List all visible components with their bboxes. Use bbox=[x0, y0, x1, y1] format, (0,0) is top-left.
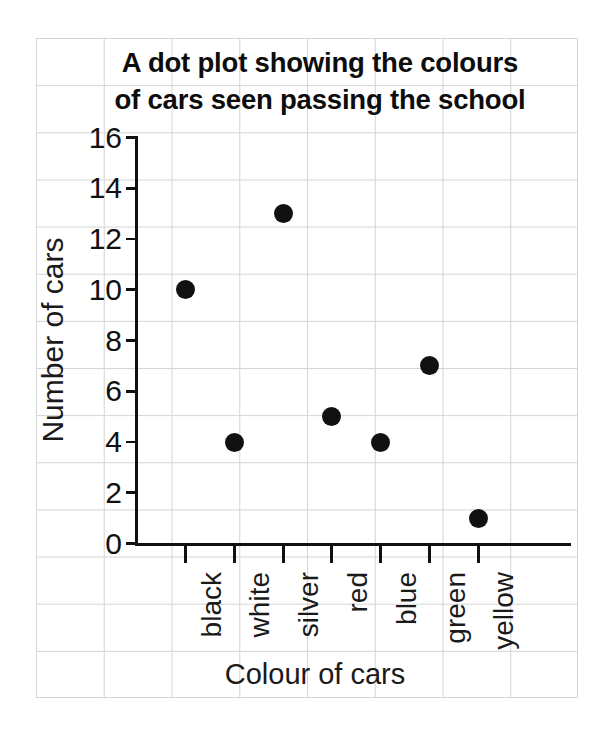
y-axis-tick bbox=[126, 339, 136, 342]
y-axis-tick-label: 6 bbox=[78, 376, 122, 406]
data-point bbox=[274, 204, 293, 223]
y-axis-tick-label-text: 12 bbox=[80, 224, 122, 254]
x-axis-tick bbox=[428, 545, 431, 563]
x-axis-tick bbox=[330, 545, 333, 563]
x-axis-tick bbox=[379, 545, 382, 563]
x-axis-tick bbox=[184, 545, 187, 563]
y-axis-tick-label: 2 bbox=[78, 478, 122, 508]
x-axis-tick bbox=[233, 545, 236, 563]
y-axis-tick bbox=[126, 390, 136, 393]
chart-title: A dot plot showing the colours of cars s… bbox=[60, 44, 580, 118]
x-axis-title: Colour of cars bbox=[140, 657, 490, 691]
y-axis-tick-label-text: 8 bbox=[80, 326, 122, 356]
y-axis-tick bbox=[126, 491, 136, 494]
y-axis-tick-label-text: 2 bbox=[80, 478, 122, 508]
x-axis-category-label: yellow bbox=[490, 572, 518, 732]
y-axis-tick-label-text: 6 bbox=[80, 376, 122, 406]
y-axis-title: Number of cars bbox=[38, 215, 68, 465]
y-axis-tick bbox=[126, 288, 136, 291]
y-axis-tick-label: 0 bbox=[78, 529, 122, 559]
dot-plot-figure: A dot plot showing the colours of cars s… bbox=[0, 0, 611, 738]
y-axis-tick-label: 12 bbox=[78, 224, 122, 254]
data-point bbox=[469, 509, 488, 528]
data-point bbox=[225, 433, 244, 452]
x-axis-category-label: white bbox=[246, 572, 274, 732]
y-axis-tick-label: 8 bbox=[78, 326, 122, 356]
y-axis-tick bbox=[126, 187, 136, 190]
x-axis-tick bbox=[477, 545, 480, 563]
x-axis-tick bbox=[282, 545, 285, 563]
y-axis-tick-label: 14 bbox=[78, 173, 122, 203]
y-axis-tick-label: 4 bbox=[78, 427, 122, 457]
y-axis-tick-label-text: 14 bbox=[80, 173, 122, 203]
x-axis-line bbox=[135, 543, 571, 546]
y-axis-tick-label-text: 4 bbox=[80, 427, 122, 457]
y-axis-tick-label-text: 16 bbox=[80, 123, 122, 153]
y-axis-tick-label-text: 0 bbox=[80, 529, 122, 559]
y-axis-tick bbox=[126, 238, 136, 241]
y-axis-tick bbox=[126, 136, 136, 139]
x-axis-category-label: blue bbox=[393, 572, 421, 732]
y-axis-tick-label-text: 10 bbox=[80, 275, 122, 305]
x-axis-category-label: silver bbox=[295, 572, 323, 732]
y-axis-tick bbox=[126, 441, 136, 444]
x-axis-category-label: green bbox=[442, 572, 470, 732]
y-axis-tick-label: 10 bbox=[78, 275, 122, 305]
x-axis-category-label: red bbox=[344, 572, 372, 732]
x-axis-category-label: black bbox=[198, 572, 226, 732]
y-axis-tick bbox=[126, 542, 136, 545]
data-point bbox=[371, 433, 390, 452]
y-axis-tick-label: 16 bbox=[78, 123, 122, 153]
